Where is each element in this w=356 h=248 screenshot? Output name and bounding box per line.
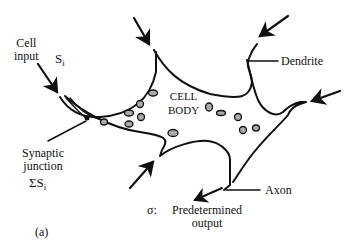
cell-body-line2: BODY bbox=[168, 103, 199, 117]
input-subscript: i bbox=[62, 58, 65, 68]
label-synaptic-junction: Synaptic junction bbox=[22, 147, 64, 173]
synaptic-pointer bbox=[48, 121, 86, 141]
label-cell-input: Cell input bbox=[14, 37, 39, 63]
label-cell-input-line2: input bbox=[14, 50, 39, 63]
output-text-line2: output bbox=[172, 217, 242, 230]
synaptic-line2: junction bbox=[22, 160, 64, 173]
sum-symbol: ΣS bbox=[29, 175, 44, 190]
panel-label: (a) bbox=[35, 226, 48, 239]
label-dendrite: Dendrite bbox=[281, 55, 323, 68]
cell-membrane-lower bbox=[65, 96, 230, 190]
label-cell-body: CELL BODY bbox=[168, 89, 199, 117]
label-output-text: Predetermined output bbox=[172, 204, 242, 230]
sum-subscript: i bbox=[44, 182, 47, 192]
cell-membrane-upper bbox=[60, 44, 257, 117]
label-sum-symbol: ΣSi bbox=[29, 176, 46, 191]
input-arrow-left bbox=[38, 64, 57, 92]
dendrite-right bbox=[233, 60, 306, 182]
input-arrow-top bbox=[134, 18, 149, 44]
label-output-symbol: σ: bbox=[147, 204, 157, 217]
cell-body-line1: CELL bbox=[168, 89, 199, 103]
synaptic-dot bbox=[85, 116, 90, 121]
output-arrow bbox=[195, 188, 222, 200]
input-arrow-bottom bbox=[130, 162, 153, 188]
input-arrow-topright bbox=[260, 16, 288, 36]
label-input-symbol: Si bbox=[55, 52, 65, 67]
label-axon: Axon bbox=[265, 184, 292, 197]
input-arrow-right bbox=[312, 91, 340, 101]
